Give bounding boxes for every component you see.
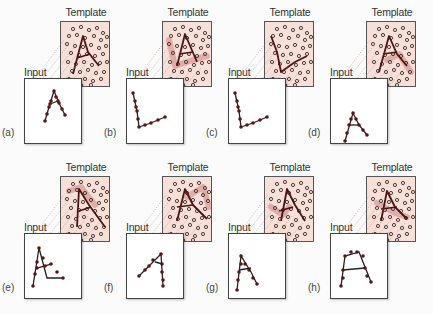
panel-tag: (f) — [104, 282, 113, 293]
template-label: Template — [162, 161, 214, 173]
input-box — [228, 233, 286, 299]
input-label: Input — [126, 66, 148, 78]
input-label: Input — [24, 66, 46, 78]
input-box — [126, 78, 184, 144]
template-label: Template — [366, 161, 418, 173]
panel-tag: (b) — [104, 127, 116, 138]
input-box — [330, 78, 388, 144]
template-label: Template — [60, 161, 112, 173]
input-label: Input — [330, 66, 352, 78]
input-box — [126, 233, 184, 299]
panel-tag: (g) — [206, 282, 218, 293]
input-label: Input — [24, 221, 46, 233]
panel-tag: (d) — [308, 127, 320, 138]
input-label: Input — [228, 221, 250, 233]
panel-tag: (a) — [2, 127, 14, 138]
template-label: Template — [366, 6, 418, 18]
input-box — [24, 233, 82, 299]
template-label: Template — [264, 6, 316, 18]
input-label: Input — [126, 221, 148, 233]
input-box — [330, 233, 388, 299]
input-label: Input — [228, 66, 250, 78]
template-label: Template — [60, 6, 112, 18]
panel-h: TemplateInput(h) — [330, 155, 431, 311]
panel-tag: (h) — [308, 282, 320, 293]
input-label: Input — [330, 221, 352, 233]
panel-tag: (c) — [206, 127, 218, 138]
input-box — [24, 78, 82, 144]
template-label: Template — [162, 6, 214, 18]
template-label: Template — [264, 161, 316, 173]
input-box — [228, 78, 286, 144]
panel-d: TemplateInput(d) — [330, 0, 431, 156]
panel-tag: (e) — [2, 282, 14, 293]
